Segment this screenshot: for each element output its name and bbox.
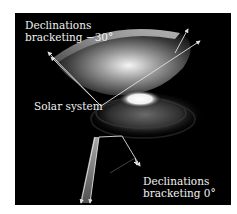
label-line: bracketing −30° xyxy=(25,31,113,43)
label-line: bracketing 0° xyxy=(143,187,216,199)
galactic-bulge xyxy=(118,90,162,108)
galaxy-declination-diagram: Declinations bracketing −30° Solar syste… xyxy=(15,13,231,205)
label-line: Declinations xyxy=(143,175,216,187)
label-line: Declinations xyxy=(25,19,113,31)
label-declinations-0: Declinations bracketing 0° xyxy=(143,175,216,199)
label-solar-system: Solar system xyxy=(34,100,103,112)
label-declinations-minus-30: Declinations bracketing −30° xyxy=(25,19,113,43)
